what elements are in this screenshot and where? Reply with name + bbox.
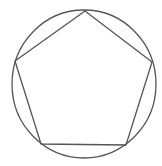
pentagon-in-circle-figure	[0, 0, 162, 166]
circumscribed-circle	[12, 10, 156, 158]
diagram-canvas	[0, 0, 162, 166]
inscribed-pentagon	[15, 11, 152, 145]
